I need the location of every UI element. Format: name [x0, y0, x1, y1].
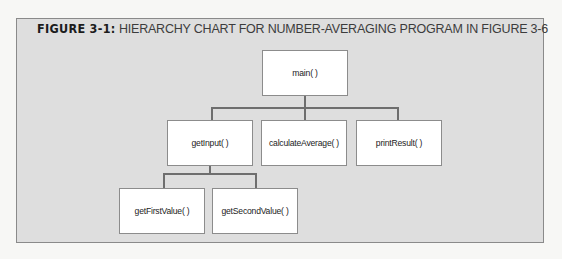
node-label: printResult( ) — [376, 138, 422, 148]
node-main: main( ) — [262, 50, 348, 96]
node-label: getInput( ) — [192, 138, 229, 148]
figure-title: HIERARCHY CHART FOR NUMBER-AVERAGING PRO… — [119, 22, 548, 36]
node-getinput: getInput( ) — [167, 120, 253, 166]
connector-level2-horizontal — [163, 173, 256, 175]
connector-to-printresult — [397, 107, 399, 120]
connector-to-getinput — [211, 107, 213, 120]
node-calculateaverage: calculateAverage( ) — [261, 120, 347, 166]
node-printresult: printResult( ) — [356, 120, 442, 166]
node-label: main( ) — [292, 68, 317, 78]
connector-to-getfirstvalue — [163, 173, 165, 188]
node-label: getSecondValue( ) — [221, 206, 288, 216]
node-label: calculateAverage( ) — [269, 138, 339, 148]
connector-to-calculateaverage — [304, 107, 306, 120]
node-label: getFirstValue( ) — [135, 206, 190, 216]
node-getfirstvalue: getFirstValue( ) — [119, 188, 205, 234]
node-getsecondvalue: getSecondValue( ) — [212, 188, 298, 234]
connector-to-getsecondvalue — [255, 173, 257, 188]
figure-caption: FIGURE 3-1: HIERARCHY CHART FOR NUMBER-A… — [37, 21, 548, 36]
figure-label: FIGURE 3-1: — [37, 21, 116, 36]
